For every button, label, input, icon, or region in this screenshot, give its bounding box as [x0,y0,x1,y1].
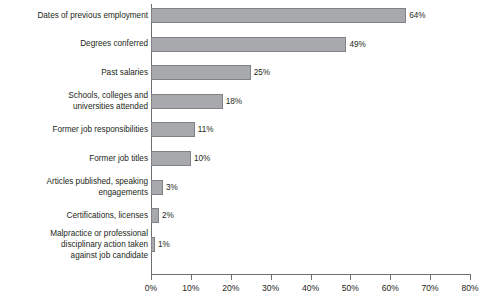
bar-row: Certifications, licenses2% [0,208,486,223]
bar [151,237,155,252]
x-axis-tick-label: 40% [302,283,319,294]
x-axis-tick [430,275,431,280]
category-label: Malpractice or professional disciplinary… [0,228,148,262]
category-label: Degrees conferred [0,38,148,49]
x-axis-tick-label: 30% [262,283,279,294]
bar-value-label: 10% [194,153,210,164]
x-axis-tick-label: 60% [382,283,399,294]
bar-row: Degrees conferred49% [0,37,486,52]
x-axis-tick-label: 50% [342,283,359,294]
bar-row: Malpractice or professional disciplinary… [0,237,486,252]
category-label: Schools, colleges and universities atten… [0,90,148,112]
bar-value-label: 49% [349,39,365,50]
x-axis-tick [311,275,312,280]
x-axis-tick-label: 0% [145,283,157,294]
bar-value-label: 1% [158,239,170,250]
bar [151,8,406,23]
category-label: Former job responsibilities [0,124,148,135]
bar-row: Former job titles10% [0,151,486,166]
x-axis-tick [390,275,391,280]
x-axis-tick-label: 80% [461,283,478,294]
category-label: Past salaries [0,67,148,78]
category-label: Certifications, licenses [0,210,148,221]
x-axis-tick [350,275,351,280]
x-axis-tick-label: 20% [222,283,239,294]
bar-value-label: 18% [226,96,242,107]
bar-value-label: 64% [409,10,425,21]
x-axis-tick-label: 10% [182,283,199,294]
bar-value-label: 3% [166,182,178,193]
bar [151,94,223,109]
bar [151,208,159,223]
bar-row: Schools, colleges and universities atten… [0,94,486,109]
x-axis-tick-label: 70% [422,283,439,294]
bar [151,37,346,52]
bar-row: Former job responsibilities11% [0,122,486,137]
bar [151,151,191,166]
horizontal-bar-chart: Dates of previous employment64%Degrees c… [0,0,486,302]
x-axis-tick [271,275,272,280]
bar-value-label: 25% [254,67,270,78]
category-label: Dates of previous employment [0,10,148,21]
category-label: Former job titles [0,153,148,164]
x-axis-tick [151,275,152,280]
bar-row: Articles published, speaking engagements… [0,180,486,195]
bar [151,180,163,195]
bar-row: Past salaries25% [0,65,486,80]
x-axis-tick [470,275,471,280]
x-axis-tick [191,275,192,280]
bar-value-label: 2% [162,210,174,221]
bar-row: Dates of previous employment64% [0,8,486,23]
bar-value-label: 11% [198,124,214,135]
category-label: Articles published, speaking engagements [0,176,148,198]
x-axis-tick [231,275,232,280]
bar [151,65,251,80]
bar [151,122,195,137]
